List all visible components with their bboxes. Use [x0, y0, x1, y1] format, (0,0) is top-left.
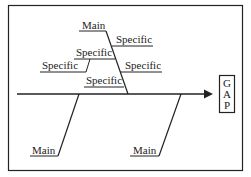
specific-left-2-label: Specific	[42, 59, 78, 71]
main-bottom-1-label: Main	[32, 144, 56, 156]
fishbone-diagram: G A P Main Specific Specific Specific Sp…	[0, 0, 251, 177]
specific-left-3-label: Specific	[86, 74, 122, 86]
main-bottom-2-bone	[159, 94, 181, 156]
specific-right-1-label: Specific	[116, 33, 152, 45]
arrow-head-icon	[204, 90, 213, 99]
main-bottom-2-label: Main	[133, 144, 157, 156]
specific-left-1-label: Specific	[76, 46, 112, 58]
specific-left-sub-bone	[86, 59, 90, 72]
main-top-label: Main	[82, 19, 106, 31]
gap-letter-p: P	[224, 99, 230, 111]
main-bottom-1-bone	[58, 94, 79, 156]
specific-right-2-label: Specific	[125, 59, 161, 71]
